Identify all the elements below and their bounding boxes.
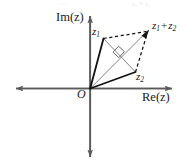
vector-origin-to-z1 xyxy=(90,39,103,89)
point-label-z1: z1 xyxy=(92,26,100,38)
vector-origin-to-z2 xyxy=(90,72,135,89)
dashed-side-z1-to-sum xyxy=(104,32,147,39)
complex-plane-figure: — z₁ + z₂ xyxy=(0,0,193,165)
sum-vertex-arrowhead xyxy=(142,30,150,39)
dashed-side-z2-to-sum xyxy=(136,33,148,73)
point-label-z2: z2 xyxy=(136,71,144,83)
imaginary-axis-label: Im(z) xyxy=(56,11,84,24)
z1-subscript: 1 xyxy=(96,30,100,39)
plus-sign: + xyxy=(160,19,168,31)
real-axis-label: Re(z) xyxy=(142,91,170,104)
origin-label: O xyxy=(77,88,86,100)
z2-subscript: 2 xyxy=(140,75,144,84)
point-label-z1-plus-z2: z1+z2 xyxy=(152,20,176,32)
sum-subscript-2: 2 xyxy=(173,24,177,33)
diagonal-z1-to-z2 xyxy=(104,39,136,73)
